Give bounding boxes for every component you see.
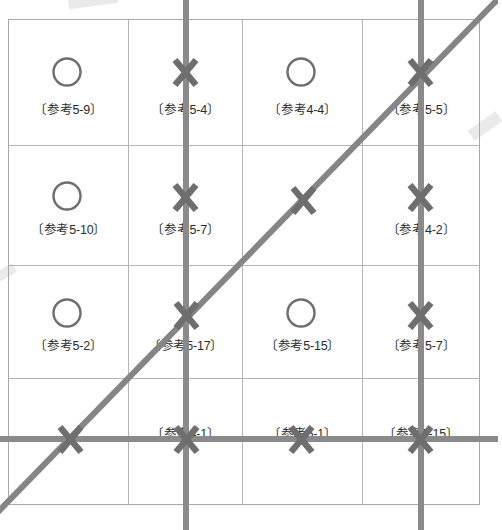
grid-cell-r3c1[interactable]: 〔参考5-2〕	[9, 266, 129, 379]
cell-label: 〔参考5-15〕	[363, 423, 479, 442]
grid-cell-r3c4[interactable]: 〔参考5-7〕	[363, 266, 479, 379]
grid-cell-r4c2[interactable]: 〔参考4-1〕	[129, 379, 243, 504]
grid-cell-r1c4[interactable]: 〔参考5-5〕	[363, 20, 479, 146]
cell-label: 〔参考5-1〕	[243, 423, 362, 442]
cell-label: 〔参考5-7〕	[363, 335, 479, 354]
grid-cell-r4c3[interactable]: 〔参考5-1〕	[243, 379, 363, 504]
grid-cell-r3c2[interactable]: 〔参考5-17〕	[129, 266, 243, 379]
scan-artifact-top-left	[67, 0, 118, 9]
cell-label: 〔参考4-2〕	[363, 219, 479, 238]
cell-label: 〔参考5-15〕	[243, 335, 362, 354]
grid-cell-r3c3[interactable]: 〔参考5-15〕	[243, 266, 363, 379]
cell-label: 〔参考4-1〕	[129, 423, 242, 442]
grid-cell-r2c1[interactable]: 〔参考5-10〕	[9, 146, 129, 266]
grid-cell-r1c3[interactable]: 〔参考4-4〕	[243, 20, 363, 146]
grid-cell-r2c2[interactable]: 〔参考5-7〕	[129, 146, 243, 266]
grid-cell-r2c3[interactable]	[243, 146, 363, 266]
grid-cell-r1c2[interactable]: 〔参考5-4〕	[129, 20, 243, 146]
cell-label: 〔参考5-4〕	[129, 99, 242, 118]
cell-label: 〔参考5-10〕	[9, 219, 128, 238]
cell-label: 〔参考5-2〕	[9, 335, 128, 354]
cell-label: 〔参考5-5〕	[363, 99, 479, 118]
cell-label: 〔参考5-7〕	[129, 219, 242, 238]
cell-label: 〔参考4-4〕	[243, 99, 362, 118]
grid-cell-r4c4[interactable]: 〔参考5-15〕	[363, 379, 479, 504]
mark-grid: 〔参考5-9〕 〔参考5-4〕 〔参考4-4〕 〔参考5-5〕 〔参考5-10〕…	[8, 19, 480, 505]
grid-cell-r1c1[interactable]: 〔参考5-9〕	[9, 20, 129, 146]
cell-label: 〔参考5-17〕	[129, 335, 242, 354]
grid-cell-r4c1[interactable]	[9, 379, 129, 504]
grid-cell-r2c4[interactable]: 〔参考4-2〕	[363, 146, 479, 266]
cell-label: 〔参考5-9〕	[9, 99, 128, 118]
